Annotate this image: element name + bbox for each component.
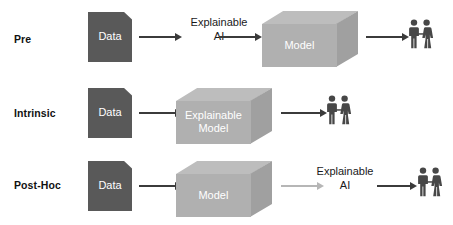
cube-posthoc-model: Model: [176, 161, 272, 217]
text-posthoc-explainable-ai: Explainable AI: [310, 164, 380, 192]
cube-intrinsic-explainable-model: Explainable Model: [176, 88, 272, 144]
arrow-posthoc-xai-to-people: [377, 180, 417, 192]
people-icon-post-hoc: [413, 166, 446, 203]
data-shape-intrinsic: Data: [88, 88, 132, 138]
people-svg: [413, 166, 446, 199]
arrow-head: [255, 33, 262, 41]
arrow-shaft: [139, 185, 175, 187]
arrow-pre-model-to-people: [366, 31, 409, 43]
arrow-shaft: [366, 36, 402, 38]
data-shape-intrinsic-label: Data: [98, 107, 121, 119]
arrow-intrinsic-model-to-people: [281, 107, 327, 119]
cube-front-face: Model: [176, 174, 251, 217]
diagram-canvas: Pre Data Explainable AI Model: [0, 0, 453, 225]
arrow-pre-data-to-xai: [139, 31, 182, 43]
arrow-head: [175, 33, 182, 41]
cube-intrinsic-label: Explainable Model: [185, 109, 242, 136]
data-shape-pre-label: Data: [98, 31, 121, 43]
arrow-shaft: [219, 36, 255, 38]
arrow-shaft: [139, 112, 175, 114]
arrow-shaft: [377, 185, 410, 187]
cube-front-face: Model: [262, 24, 337, 67]
cube-pre-model-label: Model: [284, 39, 314, 52]
people-icon-pre: [404, 18, 437, 55]
people-svg: [322, 94, 355, 127]
arrow-shaft: [139, 36, 175, 38]
arrow-shaft: [281, 112, 320, 114]
row-label-intrinsic: Intrinsic: [14, 107, 56, 119]
data-shape-post-hoc-label: Data: [98, 180, 121, 192]
data-shape-pre: Data: [88, 12, 132, 62]
people-icon-intrinsic: [322, 94, 355, 131]
row-label-pre: Pre: [14, 33, 31, 45]
cube-pre-model: Model: [262, 11, 358, 67]
arrow-pre-xai-to-model: [219, 31, 262, 43]
cube-front-face: Explainable Model: [176, 101, 251, 144]
people-svg: [404, 18, 437, 51]
cube-posthoc-model-label: Model: [198, 189, 228, 202]
row-label-post-hoc: Post-Hoc: [14, 179, 61, 191]
data-shape-post-hoc: Data: [88, 161, 132, 211]
